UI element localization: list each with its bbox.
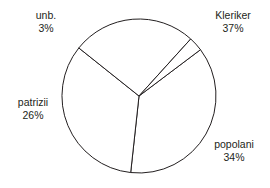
slice-label-popolani-value: 34% [198,151,270,164]
slice-label-kleriker-value: 37% [196,22,270,35]
slice-label-kleriker: Kleriker 37% [196,9,270,35]
slice-label-unb-name: unb. [12,9,80,22]
pie-chart-figure: Kleriker 37% unb. 3% patrizii 26% popola… [0,0,270,188]
slice-label-patrizii-name: patrizii [0,96,66,109]
slice-label-unb-value: 3% [12,22,80,35]
slice-label-kleriker-name: Kleriker [196,9,270,22]
slice-label-patrizii: patrizii 26% [0,96,66,122]
pie-slice-group [62,19,216,173]
slice-label-popolani: popolani 34% [198,138,270,164]
slice-label-popolani-name: popolani [198,138,270,151]
slice-label-patrizii-value: 26% [0,109,66,122]
slice-label-unb: unb. 3% [12,9,80,35]
